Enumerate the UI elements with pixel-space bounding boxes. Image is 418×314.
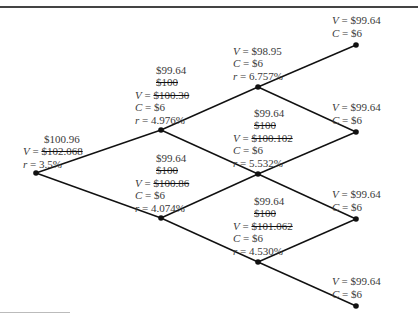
- variable-label: r =: [233, 157, 249, 169]
- node-label-n3d: V = $99.64C = $6: [332, 275, 381, 300]
- value: $6: [252, 57, 263, 69]
- node-label-line: C = $6: [332, 201, 381, 214]
- node-label-line: r = 4.976%: [135, 114, 189, 127]
- node-label-line: r = 4.530%: [233, 245, 293, 258]
- tree-node-n2uu: [255, 84, 261, 90]
- node-label-line: C = $6: [233, 232, 293, 245]
- tree-node-n3d: [353, 303, 359, 309]
- tree-node-n3c: [353, 216, 359, 222]
- node-label-n2ud: $99.64$100V = $100.102C = $6r = 5.532%: [233, 107, 293, 170]
- node-label-line: V = $101.062: [233, 220, 293, 233]
- node-label-line: $100.96: [23, 133, 83, 146]
- struck-value: $100: [254, 119, 276, 131]
- variable-label: V =: [135, 177, 153, 189]
- struck-value: $100.30: [153, 89, 189, 101]
- node-label-n2dd: $99.64$100V = $101.062C = $6r = 4.530%: [233, 195, 293, 258]
- value: $6: [252, 232, 263, 244]
- struck-value: $102.068: [41, 145, 82, 157]
- node-label-line: C = $6: [135, 101, 189, 114]
- node-label-line: $99.64: [233, 107, 293, 120]
- value: $99.64: [156, 64, 186, 76]
- variable-label: r =: [233, 245, 249, 257]
- tree-node-n1u: [158, 127, 164, 133]
- node-label-n3b: V = $99.64C = $6: [332, 101, 381, 126]
- node-label-line: C = $6: [233, 57, 283, 70]
- node-label-line: r = 6.757%: [233, 70, 283, 83]
- variable-label: V =: [135, 89, 153, 101]
- struck-value: $100: [156, 164, 178, 176]
- value: $99.64: [254, 107, 284, 119]
- tree-node-n0: [33, 170, 39, 176]
- node-label-n1u: $99.64$100V = $100.30C = $6r = 4.976%: [135, 64, 189, 127]
- value: $100.96: [44, 133, 80, 145]
- value: 4.074%: [151, 202, 185, 214]
- value: $99.64: [350, 188, 380, 200]
- tree-node-n3a: [353, 42, 359, 48]
- struck-value: $101.062: [251, 220, 292, 232]
- variable-label: C =: [332, 27, 351, 39]
- value: 4.530%: [249, 245, 283, 257]
- variable-label: C =: [233, 144, 252, 156]
- value: $99.64: [350, 14, 380, 26]
- node-label-n2uu: V = $98.95C = $6r = 6.757%: [233, 45, 283, 83]
- node-label-line: C = $6: [135, 189, 189, 202]
- node-label-line: V = $99.64: [332, 101, 381, 114]
- variable-label: V =: [233, 220, 251, 232]
- node-label-line: $100: [233, 119, 293, 132]
- node-label-line: V = $99.64: [332, 275, 381, 288]
- variable-label: r =: [135, 114, 151, 126]
- variable-label: C =: [135, 189, 154, 201]
- value: 3.5%: [39, 158, 62, 170]
- value: $99.64: [156, 152, 186, 164]
- struck-value: $100.102: [251, 132, 292, 144]
- variable-label: C =: [332, 201, 351, 213]
- variable-label: C =: [135, 101, 154, 113]
- value: $6: [351, 288, 362, 300]
- variable-label: V =: [233, 132, 251, 144]
- node-label-line: V = $100.102: [233, 132, 293, 145]
- tree-node-n2dd: [255, 259, 261, 265]
- variable-label: C =: [332, 288, 351, 300]
- node-label-line: V = $99.64: [332, 14, 381, 27]
- value: $6: [154, 101, 165, 113]
- node-label-line: $100: [135, 164, 189, 177]
- value: 4.976%: [151, 114, 185, 126]
- variable-label: r =: [135, 202, 151, 214]
- value: $6: [351, 114, 362, 126]
- variable-label: V =: [233, 45, 251, 57]
- node-label-line: $99.64: [233, 195, 293, 208]
- node-label-n1d: $99.64$100V = $100.86C = $6r = 4.074%: [135, 152, 189, 215]
- value: $99.64: [350, 101, 380, 113]
- variable-label: V =: [332, 275, 350, 287]
- node-label-line: V = $98.95: [233, 45, 283, 58]
- node-label-line: $99.64: [135, 152, 189, 165]
- node-label-line: C = $6: [233, 144, 293, 157]
- struck-value: $100: [156, 76, 178, 88]
- tree-node-n1d: [158, 215, 164, 221]
- struck-value: $100.86: [153, 177, 189, 189]
- node-label-line: $100: [135, 76, 189, 89]
- variable-label: C =: [332, 114, 351, 126]
- node-label-line: r = 4.074%: [135, 202, 189, 215]
- node-label-line: V = $100.30: [135, 89, 189, 102]
- node-label-line: r = 5.532%: [233, 157, 293, 170]
- variable-label: C =: [233, 57, 252, 69]
- node-label-n3c: V = $99.64C = $6: [332, 188, 381, 213]
- value: $99.64: [350, 275, 380, 287]
- value: $6: [351, 27, 362, 39]
- variable-label: r =: [23, 158, 39, 170]
- value: 6.757%: [249, 70, 283, 82]
- value: $6: [154, 189, 165, 201]
- node-label-line: V = $99.64: [332, 188, 381, 201]
- node-label-line: C = $6: [332, 114, 381, 127]
- node-label-line: C = $6: [332, 27, 381, 40]
- node-label-line: V = $100.86: [135, 177, 189, 190]
- struck-value: $100: [254, 207, 276, 219]
- value: 5.532%: [249, 157, 283, 169]
- node-label-line: $100: [233, 207, 293, 220]
- node-label-line: $99.64: [135, 64, 189, 77]
- node-label-line: V = $102.068: [23, 145, 83, 158]
- value: $6: [252, 144, 263, 156]
- node-label-n3a: V = $99.64C = $6: [332, 14, 381, 39]
- variable-label: r =: [233, 70, 249, 82]
